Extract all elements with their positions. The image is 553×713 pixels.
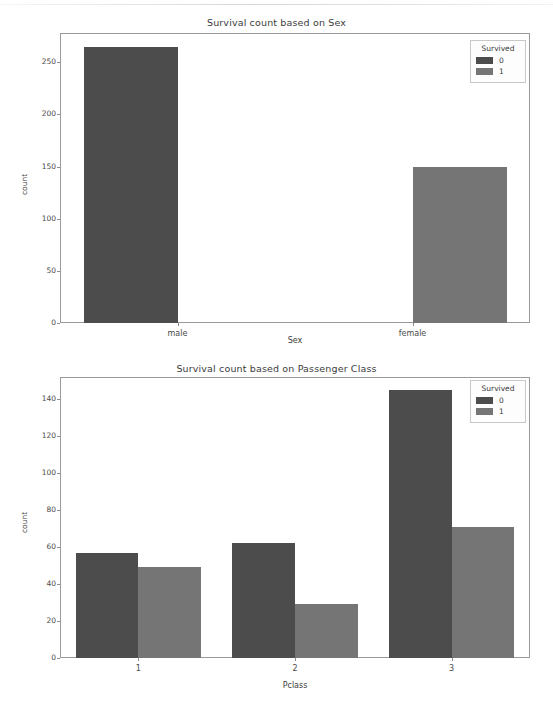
legend-swatch-1 xyxy=(476,68,493,75)
y-tick-label: 60 xyxy=(26,542,56,551)
y-tick-label: 250 xyxy=(26,57,56,66)
x-tick-label: 1 xyxy=(98,664,178,673)
y-tick-mark xyxy=(57,271,60,272)
x-tick-label: 2 xyxy=(255,664,335,673)
y-tick-mark xyxy=(57,219,60,220)
bottom-cutoff-text xyxy=(0,706,553,713)
legend-label-0: 0 xyxy=(499,56,504,65)
x-tick-mark xyxy=(413,323,414,326)
bar xyxy=(232,543,295,658)
figure-survival-by-sex: Survival count based on Sex count Sex 05… xyxy=(0,0,553,355)
y-tick-label: 150 xyxy=(26,162,56,171)
legend-label-1: 1 xyxy=(499,67,504,76)
y-tick-mark xyxy=(57,62,60,63)
legend-item[interactable]: 0 xyxy=(476,396,520,405)
bar xyxy=(295,604,358,658)
chart-title-sex: Survival count based on Sex xyxy=(0,17,553,28)
y-tick-label: 140 xyxy=(26,394,56,403)
y-tick-label: 40 xyxy=(26,579,56,588)
bar xyxy=(84,47,178,323)
y-tick-mark xyxy=(57,167,60,168)
bar xyxy=(413,167,507,323)
x-tick-label: female xyxy=(373,329,453,338)
legend-title-sex: Survived xyxy=(476,44,520,53)
y-tick-mark xyxy=(57,510,60,511)
legend-sex: Survived 0 1 xyxy=(470,40,526,83)
bar xyxy=(452,527,515,658)
y-tick-mark xyxy=(57,399,60,400)
x-tick-mark xyxy=(452,658,453,661)
y-tick-mark xyxy=(57,323,60,324)
legend-pclass: Survived 0 1 xyxy=(470,380,526,423)
y-tick-mark xyxy=(57,658,60,659)
y-tick-label: 0 xyxy=(26,653,56,662)
y-axis-label-pclass: count xyxy=(20,512,29,533)
y-tick-label: 50 xyxy=(26,266,56,275)
y-tick-mark xyxy=(57,114,60,115)
y-tick-mark xyxy=(57,547,60,548)
bar xyxy=(138,567,201,658)
x-tick-mark xyxy=(295,658,296,661)
x-axis-label-pclass: Pclass xyxy=(60,681,530,690)
legend-swatch-0 xyxy=(476,57,493,64)
bar xyxy=(389,390,452,658)
x-tick-label: male xyxy=(138,329,218,338)
y-tick-mark xyxy=(57,584,60,585)
x-tick-mark xyxy=(178,323,179,326)
legend-title-pclass: Survived xyxy=(476,384,520,393)
y-tick-label: 0 xyxy=(26,318,56,327)
x-tick-mark xyxy=(138,658,139,661)
y-tick-label: 100 xyxy=(26,214,56,223)
legend-item[interactable]: 0 xyxy=(476,56,520,65)
y-tick-label: 100 xyxy=(26,468,56,477)
x-axis-label-sex: Sex xyxy=(60,336,530,345)
legend-label-0: 0 xyxy=(499,396,504,405)
legend-swatch-1 xyxy=(476,408,493,415)
y-axis-label-sex: count xyxy=(20,174,29,195)
chart-title-pclass: Survival count based on Passenger Class xyxy=(0,363,553,374)
bar xyxy=(76,553,139,658)
y-tick-mark xyxy=(57,436,60,437)
y-tick-mark xyxy=(57,473,60,474)
x-tick-label: 3 xyxy=(412,664,492,673)
figure-survival-by-passenger-class: Survival count based on Passenger Class … xyxy=(0,355,553,713)
legend-swatch-0 xyxy=(476,397,493,404)
y-tick-label: 20 xyxy=(26,616,56,625)
y-tick-mark xyxy=(57,621,60,622)
y-tick-label: 200 xyxy=(26,109,56,118)
y-tick-label: 120 xyxy=(26,431,56,440)
legend-label-1: 1 xyxy=(499,407,504,416)
legend-item[interactable]: 1 xyxy=(476,407,520,416)
legend-item[interactable]: 1 xyxy=(476,67,520,76)
y-tick-label: 80 xyxy=(26,505,56,514)
